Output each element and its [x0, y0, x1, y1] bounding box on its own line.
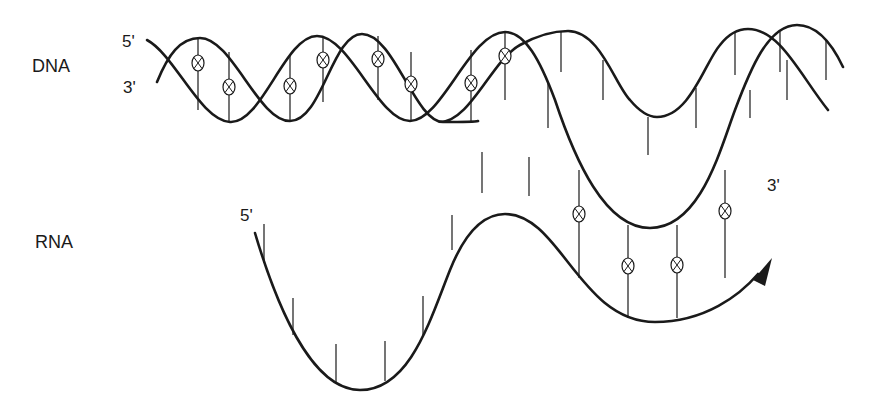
- dna-base-pairs: [192, 32, 511, 121]
- rna-strand: [255, 214, 758, 390]
- transcription-diagram: [0, 0, 873, 404]
- rna-direction-arrow: [753, 258, 772, 286]
- dna-coding-strand: [157, 29, 828, 122]
- dna-template-strand: [147, 25, 843, 228]
